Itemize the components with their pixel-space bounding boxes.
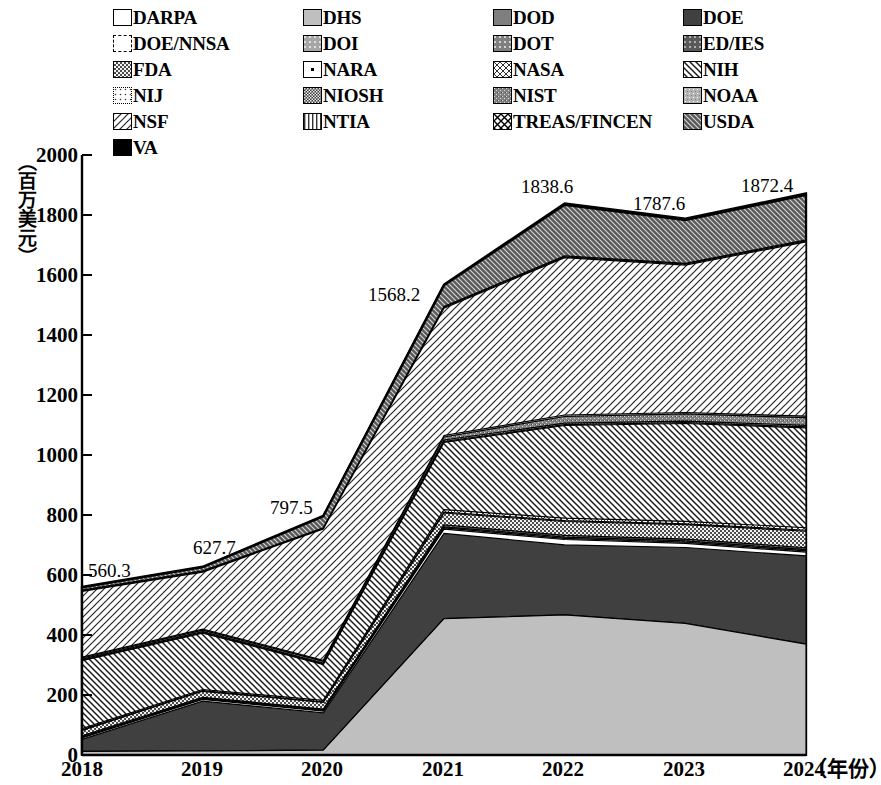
x-tick-2021: 2021 — [398, 759, 488, 780]
data-label-2022: 1838.6 — [521, 177, 573, 196]
x-tick-2022: 2022 — [518, 759, 608, 780]
y-tick-1400: 1400 — [16, 325, 78, 346]
y-tick-400: 400 — [16, 625, 78, 646]
x-tick-2023: 2023 — [639, 759, 729, 780]
x-tick-2018: 2018 — [37, 759, 127, 780]
data-label-2021: 1568.2 — [368, 285, 420, 304]
x-tick-2019: 2019 — [157, 759, 247, 780]
x-tick-2020: 2020 — [277, 759, 367, 780]
data-label-2024: 1872.4 — [741, 176, 793, 195]
y-tick-2000: 2000 — [16, 145, 78, 166]
y-tick-1000: 1000 — [16, 445, 78, 466]
y-tick-1200: 1200 — [16, 385, 78, 406]
y-tick-1600: 1600 — [16, 265, 78, 286]
stack-bands — [82, 193, 806, 755]
y-tick-800: 800 — [16, 505, 78, 526]
y-tick-1800: 1800 — [16, 205, 78, 226]
y-tick-labels: 2000 1800 1600 1400 1200 1000 800 600 40… — [14, 0, 78, 785]
y-tick-600: 600 — [16, 565, 78, 586]
y-tick-200: 200 — [16, 685, 78, 706]
x-axis-unit-label: （年份） — [806, 759, 881, 780]
data-label-2018: 560.3 — [88, 561, 131, 580]
data-label-2020: 797.5 — [270, 498, 313, 517]
data-label-2019: 627.7 — [193, 538, 236, 557]
data-label-2023: 1787.6 — [633, 194, 685, 213]
